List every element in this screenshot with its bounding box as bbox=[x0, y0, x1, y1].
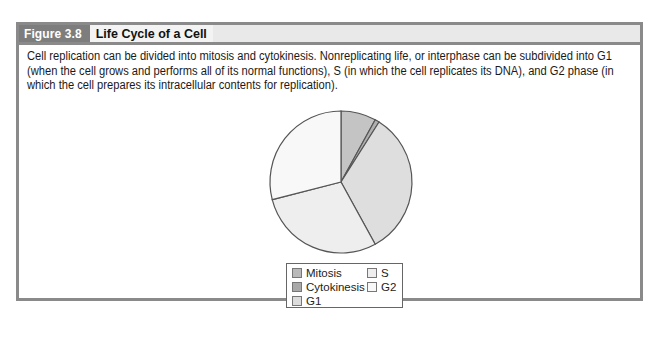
chart-legend: Mitosis Cytokinesis G1 S G2 bbox=[286, 263, 403, 308]
legend-swatch-icon bbox=[292, 296, 302, 306]
legend-swatch-icon bbox=[292, 268, 302, 278]
figure-number: Figure 3.8 bbox=[19, 25, 90, 42]
legend-item-cytokinesis: Cytokinesis bbox=[292, 281, 365, 293]
figure-caption: Cell replication can be divided into mit… bbox=[27, 49, 632, 93]
legend-item-g1: G1 bbox=[292, 295, 321, 307]
figure-header: Figure 3.8 Life Cycle of a Cell bbox=[19, 25, 640, 45]
pie-chart bbox=[266, 107, 416, 257]
legend-item-mitosis: Mitosis bbox=[292, 267, 342, 279]
legend-item-g2: G2 bbox=[367, 281, 396, 293]
legend-swatch-icon bbox=[367, 282, 377, 292]
figure-box: Figure 3.8 Life Cycle of a Cell Cell rep… bbox=[16, 22, 643, 301]
figure-title: Life Cycle of a Cell bbox=[90, 25, 213, 42]
legend-item-s: S bbox=[367, 267, 389, 279]
legend-swatch-icon bbox=[367, 268, 377, 278]
legend-swatch-icon bbox=[292, 282, 302, 292]
